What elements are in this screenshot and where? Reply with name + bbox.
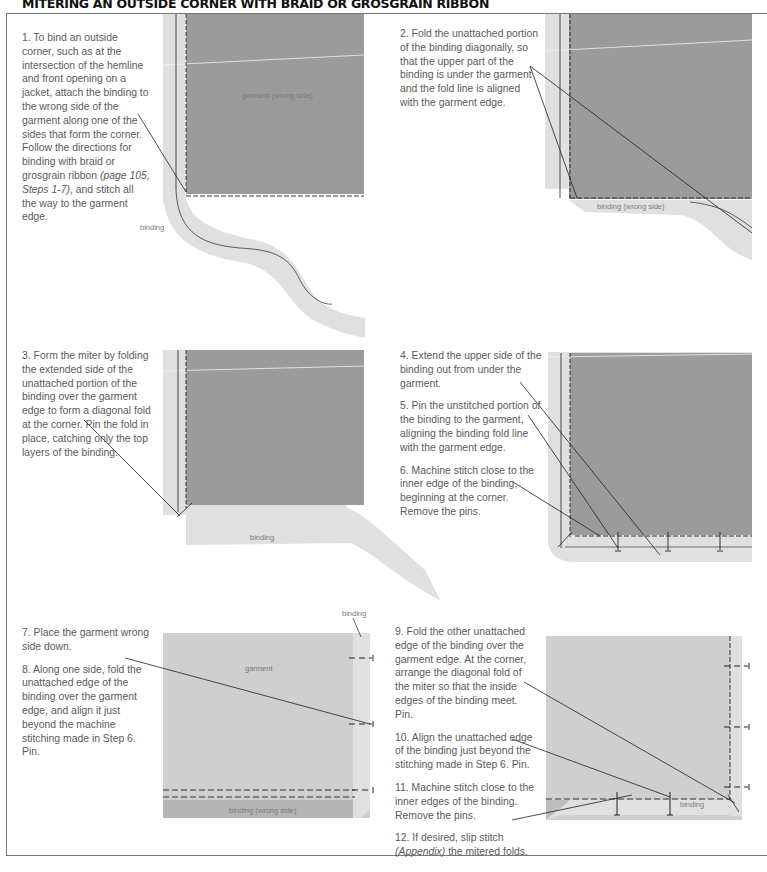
appendix-reference: (Appendix) xyxy=(395,846,445,857)
label-garment-wrong-side-1: garment (wrong side) xyxy=(242,91,313,100)
label-binding-wrong-side-5: binding (wrong side) xyxy=(229,806,297,815)
step-7: 7. Place the garment wrong side down. xyxy=(22,626,152,654)
panel-4-text: 4. Extend the upper side of the binding … xyxy=(400,349,542,528)
step-5: 5. Pin the unstitched portion of the bin… xyxy=(400,399,542,454)
label-binding-6: binding xyxy=(680,800,704,809)
panel-5-illustration xyxy=(125,618,373,818)
panel-1-text: 1. To bind an outside corner, such as at… xyxy=(22,31,150,233)
step-4: 4. Extend the upper side of the binding … xyxy=(400,349,542,390)
step-9: 9. Fold the other unattached edge of the… xyxy=(395,625,537,722)
step-3: 3. Form the miter by folding the extende… xyxy=(22,349,152,459)
panel-4-illustration xyxy=(513,352,752,562)
step-12: 12. If desired, slip stitch (Appendix) t… xyxy=(395,831,537,859)
panel-2-illustration xyxy=(530,14,752,260)
panel-1-illustration xyxy=(138,14,365,338)
step-1: 1. To bind an outside corner, such as at… xyxy=(22,31,150,224)
panel-5-text: 7. Place the garment wrong side down. 8.… xyxy=(22,626,152,768)
label-binding-3: binding xyxy=(250,533,274,542)
step-11: 11. Machine stitch close to the inner ed… xyxy=(395,781,537,822)
step-2: 2. Fold the unattached portion of the bi… xyxy=(400,27,540,110)
label-binding-wrong-side-2: binding (wrong side) xyxy=(597,202,665,211)
step-10: 10. Align the unattached edge of the bin… xyxy=(395,731,537,772)
step-8: 8. Along one side, fold the unattached e… xyxy=(22,663,152,760)
panel-2-text: 2. Fold the unattached portion of the bi… xyxy=(400,27,540,119)
step-6: 6. Machine stitch close to the inner edg… xyxy=(400,464,542,519)
label-garment-5: garment xyxy=(245,664,273,673)
panel-6-illustration xyxy=(512,636,749,820)
panel-6-text: 9. Fold the other unattached edge of the… xyxy=(395,625,537,868)
label-binding-top-5: binding xyxy=(342,609,366,618)
panel-3-text: 3. Form the miter by folding the extende… xyxy=(22,349,152,468)
